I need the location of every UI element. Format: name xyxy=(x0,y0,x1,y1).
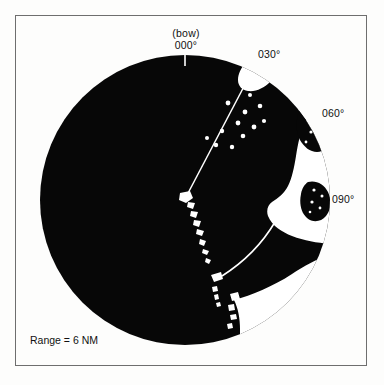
target-echo xyxy=(243,110,248,115)
target-echo xyxy=(241,134,246,139)
land-gap-dot-se-4 xyxy=(319,207,322,210)
target-echo xyxy=(248,93,252,97)
bearing-label-000: 000° xyxy=(163,39,209,51)
land-gap-dot-e-4 xyxy=(319,133,322,136)
target-echo xyxy=(262,119,266,123)
target-echo xyxy=(236,121,241,126)
land-gap-dot-ne-1 xyxy=(260,62,263,65)
target-echo xyxy=(258,104,263,109)
target-echo xyxy=(252,125,257,130)
land-fragment-ne-1 xyxy=(254,58,276,72)
land-gap-dot-se-5 xyxy=(309,211,312,214)
bearing-label-060: 060° xyxy=(322,107,345,119)
land-gap-dot-e-3 xyxy=(309,130,312,133)
target-echo xyxy=(205,136,209,140)
land-gap-dot-ne-3 xyxy=(279,75,282,78)
radar-figure: (bow) 000° 030° 060° 090° Range = 6 NM xyxy=(0,0,384,385)
range-label: Range = 6 NM xyxy=(30,334,98,346)
land-gap-dot-e-1 xyxy=(306,116,309,119)
land-gap-dot-se-2 xyxy=(321,195,324,198)
radar-scope[interactable] xyxy=(0,0,384,385)
land-gap-dot-e-2 xyxy=(314,122,317,125)
bow-label: (bow) xyxy=(163,27,209,39)
land-gap-dot-ne-4 xyxy=(285,78,288,81)
land-gap-dot-ne-2 xyxy=(269,65,272,68)
land-fragment-ne-2 xyxy=(271,70,292,85)
target-echo xyxy=(220,129,224,133)
bearing-label-030: 030° xyxy=(258,48,281,60)
bearing-label-090: 090° xyxy=(332,193,355,205)
target-echo xyxy=(214,143,218,147)
land-gap-dot-e-5 xyxy=(305,141,308,144)
target-echo xyxy=(230,145,234,149)
land-gap-dot-se-3 xyxy=(310,200,313,203)
target-echo xyxy=(226,101,231,106)
land-gap-dot-se-1 xyxy=(312,188,315,191)
